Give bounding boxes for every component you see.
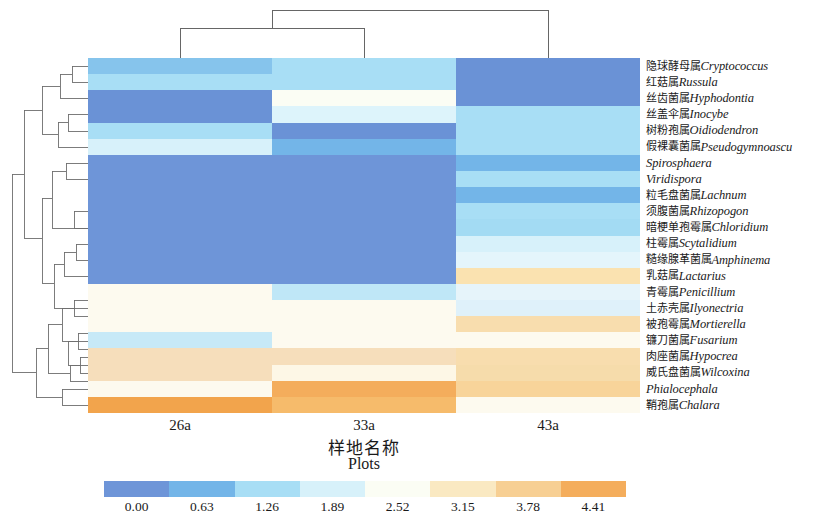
row-label-sci: Hyphodontia — [690, 92, 754, 105]
color-legend-ticks: 0.000.631.261.892.523.153.784.41 — [104, 498, 626, 516]
row-label-sci: Scytalidium — [679, 237, 737, 250]
row-label-cn: 粒毛盘菌属 — [646, 190, 701, 201]
x-axis-tick-labels: 26a33a43a — [88, 413, 640, 435]
row-label: 须腹菌属Rhizopogon — [646, 203, 822, 219]
row-label: 被孢霉属Mortierella — [646, 316, 822, 332]
row-label-sci: Amphinema — [711, 254, 770, 267]
legend-swatch — [169, 481, 234, 497]
heatmap-cell — [272, 365, 456, 381]
row-label-cn: 被孢霉属 — [646, 319, 690, 330]
heatmap-cell — [272, 348, 456, 364]
heatmap-cell — [272, 74, 456, 90]
heatmap-cell — [456, 155, 640, 171]
row-label-sci: Mortierella — [690, 318, 746, 331]
heatmap-cell — [456, 219, 640, 235]
heatmap-cell — [456, 268, 640, 284]
heatmap-cell — [88, 155, 272, 171]
row-label-cn: 丝盖伞属 — [646, 109, 690, 120]
heatmap-cell — [456, 90, 640, 106]
heatmap-cell — [456, 106, 640, 122]
row-label: 土赤壳属Ilyonectria — [646, 300, 822, 316]
legend-tick-label: 2.52 — [365, 498, 430, 516]
row-label: 隐球酵母属Cryptococcus — [646, 58, 822, 74]
heatmap-cell — [456, 397, 640, 413]
heatmap-cell — [456, 187, 640, 203]
legend-swatch — [561, 481, 626, 497]
row-label-sci: Hypocrea — [690, 350, 738, 363]
row-label-sci: Fusarium — [690, 334, 738, 347]
heatmap-cell — [272, 171, 456, 187]
row-label-cn: 威氏盘菌属 — [646, 367, 701, 378]
x-axis-title-en: Plots — [88, 455, 640, 473]
legend-swatch — [430, 481, 495, 497]
row-label: 青霉属Penicillium — [646, 284, 822, 300]
heatmap-cell — [88, 74, 272, 90]
heatmap-cell — [456, 300, 640, 316]
heatmap-grid — [88, 58, 640, 413]
heatmap-cell — [272, 90, 456, 106]
row-label-cn: 糙缘腺革菌属 — [646, 254, 711, 265]
row-label-cn: 树粉孢属 — [646, 125, 690, 136]
legend-tick-label: 3.15 — [430, 498, 495, 516]
heatmap-cell — [88, 332, 272, 348]
heatmap-cell — [456, 58, 640, 74]
row-label: 暗梗单孢霉属Chloridium — [646, 219, 822, 235]
heatmap-cell — [456, 123, 640, 139]
row-label-cn: 隐球酵母属 — [646, 61, 701, 72]
heatmap-cell — [272, 155, 456, 171]
heatmap-cell — [88, 300, 272, 316]
heatmap-cell — [88, 284, 272, 300]
row-label-cn: 土赤壳属 — [646, 303, 690, 314]
row-label-cn: 青霉属 — [646, 287, 679, 298]
row-label: 红菇属Russula — [646, 74, 822, 90]
row-label: Viridispora — [646, 171, 822, 187]
heatmap-cell — [88, 106, 272, 122]
heatmap-cell — [88, 316, 272, 332]
row-label-cn: 鞘孢属 — [646, 400, 679, 411]
heatmap-cell — [88, 397, 272, 413]
row-label-sci: Chloridium — [711, 221, 768, 234]
legend-tick-label: 3.78 — [496, 498, 561, 516]
row-label-cn: 暗梗单孢霉属 — [646, 222, 711, 233]
row-label-sci: Cryptococcus — [701, 60, 769, 73]
row-label: 柱霉属Scytalidium — [646, 236, 822, 252]
row-label-sci: Oidiodendron — [690, 124, 758, 137]
row-label: 假裸囊菌属Pseudogymnoascu — [646, 139, 822, 155]
x-tick-label: 33a — [272, 413, 456, 435]
row-label: 树粉孢属Oidiodendron — [646, 123, 822, 139]
row-label-sci: Viridispora — [646, 173, 702, 186]
x-tick-label: 26a — [88, 413, 272, 435]
heatmap-cell — [272, 284, 456, 300]
row-label-list: 隐球酵母属Cryptococcus红菇属Russula丝齿菌属Hyphodont… — [646, 58, 822, 413]
row-dendrogram — [2, 58, 88, 413]
legend-swatch — [300, 481, 365, 497]
row-label: 糙缘腺革菌属Amphinema — [646, 252, 822, 268]
legend-tick-label: 0.00 — [104, 498, 169, 516]
heatmap-cell — [456, 365, 640, 381]
heatmap-cell — [88, 139, 272, 155]
row-label-cn: 须腹菌属 — [646, 206, 690, 217]
row-label-cn: 乳菇属 — [646, 270, 679, 281]
heatmap-cell — [88, 381, 272, 397]
row-label: 肉座菌属Hypocrea — [646, 349, 822, 365]
heatmap-cell — [456, 236, 640, 252]
row-label: 丝齿菌属Hyphodontia — [646, 90, 822, 106]
legend-tick-label: 4.41 — [561, 498, 626, 516]
legend-tick-label: 0.63 — [169, 498, 234, 516]
heatmap-cell — [272, 252, 456, 268]
heatmap-cell — [456, 139, 640, 155]
heatmap-cell — [88, 348, 272, 364]
row-label-sci: Wilcoxina — [701, 366, 750, 379]
heatmap-cell — [456, 348, 640, 364]
row-label: Phialocephala — [646, 381, 822, 397]
row-label-sci: Chalara — [679, 399, 720, 412]
heatmap-cell — [456, 74, 640, 90]
row-label-sci: Spirosphaera — [646, 157, 712, 170]
heatmap-cell — [272, 316, 456, 332]
heatmap-cell — [456, 203, 640, 219]
heatmap-cell — [272, 332, 456, 348]
row-label-sci: Ilyonectria — [690, 302, 744, 315]
heatmap-cell — [456, 381, 640, 397]
row-label-cn: 假裸囊菌属 — [646, 141, 701, 152]
heatmap-cell — [272, 236, 456, 252]
